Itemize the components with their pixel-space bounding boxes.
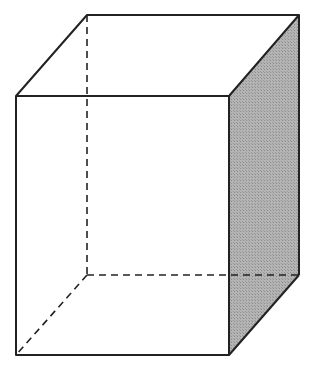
hidden-edge-depth-bottom-left <box>16 275 87 355</box>
shaded-right-face <box>229 15 299 355</box>
front-face <box>16 96 229 355</box>
cuboid-diagram <box>0 0 314 385</box>
cuboid-svg <box>0 0 314 385</box>
